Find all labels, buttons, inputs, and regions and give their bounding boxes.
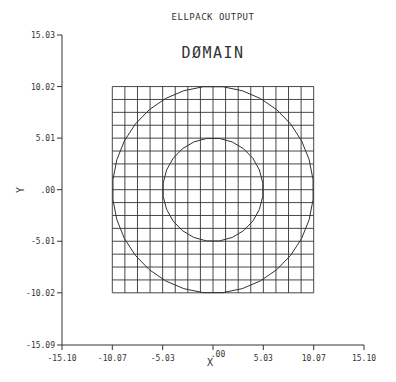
- x-tick-label: 5.03: [254, 354, 273, 363]
- y-tick-label: 5.01: [36, 134, 55, 143]
- x-axis-label: X: [207, 357, 213, 368]
- mesh-grid: [112, 87, 313, 293]
- y-tick-label: -10.02: [26, 289, 55, 298]
- domain-plot: ELLPACK OUTPUT DØMAIN -15.10-10.07-5.03.…: [0, 0, 396, 382]
- x-tick-label: 10.07: [302, 354, 326, 363]
- chart-title: ELLPACK OUTPUT: [172, 12, 255, 22]
- chart-subtitle: DØMAIN: [181, 44, 244, 62]
- y-axis-label: Y: [15, 187, 26, 193]
- x-tick-label: -15.10: [48, 354, 77, 363]
- y-axis-ticks: 15.0310.025.01.00-5.01-10.02-15.09: [26, 31, 62, 350]
- y-tick-label: -15.09: [26, 341, 55, 350]
- x-tick-label: -10.07: [98, 354, 127, 363]
- x-tick-label: -5.03: [151, 354, 175, 363]
- y-tick-label: .00: [41, 186, 56, 195]
- x-tick-label: 15.10: [352, 354, 376, 363]
- y-tick-label: 15.03: [31, 31, 55, 40]
- y-tick-label: -5.01: [31, 237, 55, 246]
- y-tick-label: 10.02: [31, 83, 55, 92]
